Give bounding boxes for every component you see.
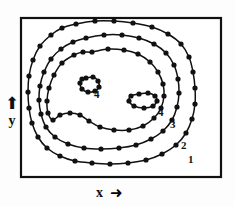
data-point-marker bbox=[59, 25, 64, 30]
data-point-marker bbox=[29, 120, 34, 125]
data-point-marker bbox=[189, 116, 194, 121]
data-point-marker bbox=[71, 52, 76, 57]
data-point-marker bbox=[183, 130, 188, 135]
data-point-marker bbox=[147, 59, 152, 64]
data-point-marker bbox=[140, 123, 145, 128]
data-point-marker bbox=[135, 51, 140, 56]
data-point-marker bbox=[119, 32, 124, 37]
data-point-marker bbox=[44, 145, 49, 150]
data-point-marker bbox=[51, 72, 56, 77]
y-axis-label: y bbox=[3, 112, 21, 130]
data-point-marker bbox=[52, 134, 57, 139]
data-point-marker bbox=[165, 31, 170, 36]
data-point-marker bbox=[89, 49, 94, 54]
data-point-marker bbox=[130, 20, 135, 25]
data-point-marker bbox=[160, 128, 165, 133]
data-point-marker bbox=[192, 101, 197, 106]
data-point-marker bbox=[83, 35, 88, 40]
arrow-right-icon: ➜ bbox=[110, 184, 123, 202]
contour-plot-figure bbox=[0, 0, 235, 207]
data-point-marker bbox=[128, 93, 133, 98]
data-point-marker bbox=[57, 112, 62, 117]
data-point-marker bbox=[133, 142, 138, 147]
data-point-marker bbox=[48, 32, 53, 37]
data-point-marker bbox=[35, 134, 40, 139]
contour-label-right-peak-contour: 4 bbox=[158, 107, 164, 118]
data-point-marker bbox=[77, 112, 82, 117]
data-point-marker bbox=[89, 160, 94, 165]
data-point-marker bbox=[141, 105, 146, 110]
data-point-marker bbox=[67, 110, 72, 115]
data-point-marker bbox=[26, 105, 31, 110]
data-point-marker bbox=[98, 146, 103, 151]
data-point-marker bbox=[45, 110, 50, 115]
data-point-marker bbox=[50, 117, 55, 122]
data-point-marker bbox=[136, 35, 141, 40]
data-point-marker bbox=[171, 62, 176, 67]
x-axis-label: x bbox=[96, 185, 103, 200]
data-point-marker bbox=[175, 76, 180, 81]
data-point-marker bbox=[131, 103, 136, 108]
data-point-marker bbox=[97, 124, 102, 129]
data-point-marker bbox=[149, 24, 154, 29]
arrow-up-icon: ⬆ bbox=[3, 96, 21, 110]
data-point-marker bbox=[79, 86, 84, 91]
data-point-marker bbox=[30, 57, 35, 62]
data-point-marker bbox=[192, 85, 197, 90]
data-point-marker bbox=[155, 69, 160, 74]
data-point-marker bbox=[90, 74, 95, 79]
data-point-marker bbox=[176, 90, 181, 95]
data-point-marker bbox=[121, 47, 126, 52]
data-point-marker bbox=[159, 151, 164, 156]
data-point-marker bbox=[65, 141, 70, 146]
data-point-marker bbox=[43, 124, 48, 129]
data-point-marker bbox=[151, 41, 156, 46]
data-point-marker bbox=[58, 46, 63, 51]
contour-label-left-peak-contour: 4 bbox=[94, 89, 100, 100]
data-point-marker bbox=[86, 118, 91, 123]
data-point-marker bbox=[85, 89, 90, 94]
data-point-marker bbox=[26, 73, 31, 78]
data-point-marker bbox=[107, 161, 112, 166]
data-point-marker bbox=[44, 98, 49, 103]
data-point-marker bbox=[73, 21, 78, 26]
data-point-marker bbox=[116, 145, 121, 150]
data-point-marker bbox=[150, 103, 155, 108]
data-point-marker bbox=[111, 18, 116, 23]
data-point-marker bbox=[37, 83, 42, 88]
data-point-marker bbox=[190, 69, 195, 74]
data-point-marker bbox=[105, 46, 110, 51]
contour-label-second-contour: 2 bbox=[181, 140, 187, 151]
data-point-marker bbox=[101, 32, 106, 37]
data-point-marker bbox=[143, 157, 148, 162]
data-point-marker bbox=[95, 78, 100, 83]
data-point-marker bbox=[136, 91, 141, 96]
contour-label-third-contour-peanut: 3 bbox=[170, 119, 176, 130]
y-axis-label-group: ⬆ y bbox=[3, 96, 21, 144]
data-point-marker bbox=[163, 50, 168, 55]
data-point-marker bbox=[126, 127, 131, 132]
data-point-marker bbox=[80, 49, 85, 54]
data-point-marker bbox=[57, 153, 62, 158]
data-point-marker bbox=[125, 160, 130, 165]
data-point-marker bbox=[174, 104, 179, 109]
data-point-marker bbox=[46, 85, 51, 90]
data-point-marker bbox=[161, 93, 166, 98]
data-point-marker bbox=[59, 60, 64, 65]
data-point-marker bbox=[25, 89, 30, 94]
data-point-marker bbox=[92, 18, 97, 23]
data-point-marker bbox=[173, 142, 178, 147]
data-point-marker bbox=[151, 115, 156, 120]
data-point-marker bbox=[154, 98, 159, 103]
data-point-marker bbox=[152, 93, 157, 98]
data-point-marker bbox=[48, 56, 53, 61]
data-point-marker bbox=[81, 145, 86, 150]
data-point-marker bbox=[126, 98, 131, 103]
data-point-marker bbox=[111, 127, 116, 132]
data-point-marker bbox=[79, 76, 84, 81]
data-point-marker bbox=[72, 158, 77, 163]
data-point-marker bbox=[36, 97, 41, 102]
contour-label-outermost-contour: 1 bbox=[188, 154, 194, 165]
data-point-marker bbox=[70, 39, 75, 44]
data-point-marker bbox=[37, 43, 42, 48]
